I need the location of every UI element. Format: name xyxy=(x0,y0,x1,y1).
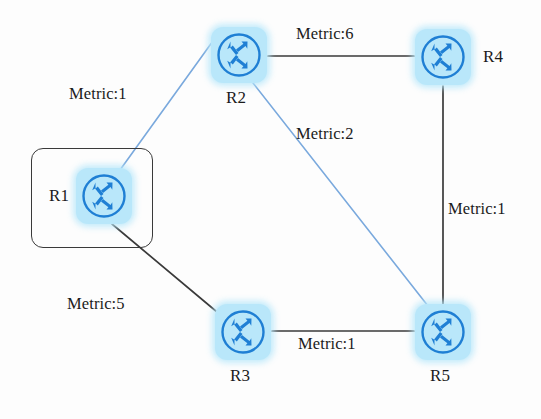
network-topology-diagram: R1 R2 R3 xyxy=(0,0,541,419)
node-label-r2: R2 xyxy=(226,88,246,108)
router-node-r3[interactable] xyxy=(215,304,271,360)
router-icon xyxy=(415,304,471,360)
edge-label-r2-r5: Metric:2 xyxy=(296,124,354,144)
router-node-r1[interactable] xyxy=(76,168,132,224)
edge-label-r1-r2: Metric:1 xyxy=(69,84,127,104)
edge-label-r4-r5: Metric:1 xyxy=(448,199,506,219)
edge-label-r2-r4: Metric:6 xyxy=(296,24,354,44)
node-label-r5: R5 xyxy=(430,366,450,386)
router-node-r4[interactable] xyxy=(415,29,471,85)
router-icon xyxy=(415,29,471,85)
edge-label-r1-r3: Metric:5 xyxy=(67,294,125,314)
router-node-r5[interactable] xyxy=(415,304,471,360)
link-r2-r5 xyxy=(253,83,428,306)
router-node-r2[interactable] xyxy=(211,27,267,83)
edge-label-r3-r5: Metric:1 xyxy=(298,334,356,354)
router-icon xyxy=(215,304,271,360)
node-label-r3: R3 xyxy=(230,366,250,386)
router-icon xyxy=(76,168,132,224)
node-label-r4: R4 xyxy=(483,47,503,67)
node-label-r1: R1 xyxy=(49,186,69,206)
router-icon xyxy=(211,27,267,83)
